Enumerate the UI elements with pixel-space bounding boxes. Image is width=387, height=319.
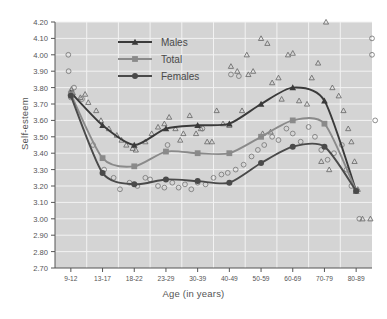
self-esteem-by-age-chart: 2.702.802.903.003.103.203.303.403.503.60… xyxy=(0,0,387,319)
x-axis-tick-label: 23-29 xyxy=(158,275,175,282)
series-marker-total xyxy=(100,155,106,161)
y-axis-tick-label: 2.90 xyxy=(33,231,48,240)
y-axis-tick-label: 3.60 xyxy=(33,116,48,125)
series-marker-total xyxy=(226,150,232,156)
x-axis-tick-label: 60-69 xyxy=(284,275,301,282)
x-axis-tick-label: 9-12 xyxy=(64,275,78,282)
y-axis-tick-label: 3.40 xyxy=(33,149,48,158)
x-axis-tick-label: 40-49 xyxy=(221,275,238,282)
y-axis-tick-label: 4.00 xyxy=(33,51,48,60)
series-marker-total xyxy=(195,150,201,156)
x-axis-tick-label: 70-79 xyxy=(316,275,333,282)
x-axis-title: Age (in years) xyxy=(0,288,387,299)
series-marker-females xyxy=(226,180,232,186)
series-marker-females xyxy=(163,176,169,182)
series-marker-females xyxy=(100,170,106,176)
y-axis-tick-label: 2.80 xyxy=(33,248,48,257)
x-axis-tick-label: 50-59 xyxy=(253,275,270,282)
y-axis-tick-label: 3.00 xyxy=(33,215,48,224)
series-marker-females xyxy=(195,178,201,184)
series-marker-total xyxy=(131,163,137,169)
y-axis-tick-label: 3.70 xyxy=(33,100,48,109)
y-axis-tick-label: 3.80 xyxy=(33,84,48,93)
scatter-point-female xyxy=(373,118,378,123)
legend-label-total: Total xyxy=(161,54,182,65)
y-axis-title: Self-esteem xyxy=(19,74,30,174)
legend-label-males: Males xyxy=(161,37,188,48)
y-axis-tick-label: 3.50 xyxy=(33,133,48,142)
series-marker-females xyxy=(353,188,359,194)
series-marker-females xyxy=(321,144,327,150)
legend-marker-females xyxy=(132,73,138,79)
y-axis-tick-label: 4.10 xyxy=(33,34,48,43)
y-axis-tick-label: 2.70 xyxy=(33,264,48,273)
series-marker-females xyxy=(290,144,296,150)
series-marker-females xyxy=(258,160,264,166)
x-axis-tick-label: 13-17 xyxy=(94,275,111,282)
x-axis-tick-label: 80-89 xyxy=(348,275,365,282)
y-axis-tick-label: 4.20 xyxy=(33,18,48,27)
x-axis-tick-label: 30-39 xyxy=(189,275,206,282)
series-marker-total xyxy=(163,149,169,155)
y-axis-tick-label: 3.20 xyxy=(33,182,48,191)
y-axis-tick-label: 3.30 xyxy=(33,166,48,175)
chart-canvas: 2.702.802.903.003.103.203.303.403.503.60… xyxy=(0,0,387,319)
y-axis-tick-label: 3.10 xyxy=(33,198,48,207)
x-axis-tick-label: 18-22 xyxy=(126,275,143,282)
series-marker-total xyxy=(258,134,264,140)
y-axis-tick-label: 3.90 xyxy=(33,67,48,76)
series-marker-females xyxy=(68,93,74,99)
legend-label-females: Females xyxy=(161,71,199,82)
series-marker-total xyxy=(322,121,328,127)
series-marker-females xyxy=(131,181,137,187)
series-marker-total xyxy=(290,118,296,124)
legend-marker-total xyxy=(132,56,138,62)
